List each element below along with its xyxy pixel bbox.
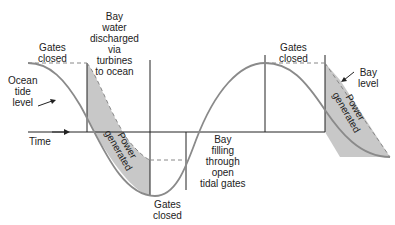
gates-closed-label-2: Gates closed	[279, 42, 308, 64]
tidal-diagram	[0, 0, 395, 225]
ocean-tide-level-label: Ocean tide level	[8, 75, 37, 108]
bay-level-label: Bay level	[358, 67, 379, 89]
bay-filling-label: Bay filling through open tidal gates	[200, 134, 246, 189]
time-label: Time	[29, 136, 51, 147]
gates-closed-label-3: Gates closed	[153, 199, 182, 221]
gates-closed-label-1: Gates closed	[38, 42, 67, 64]
bay-water-discharged-label: Bay water discharged via turbines to oce…	[90, 11, 139, 77]
